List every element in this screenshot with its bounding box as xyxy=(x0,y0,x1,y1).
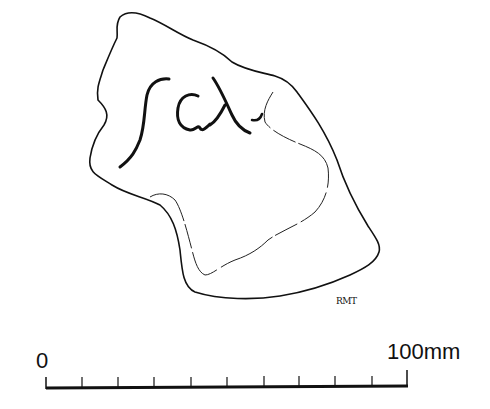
inscription-letter-c xyxy=(178,95,211,131)
inscription-letter-lambda xyxy=(210,78,250,133)
inscription-letter-gamma xyxy=(120,79,169,167)
inscription-letter-partial xyxy=(252,114,262,120)
scale-start-label: 0 xyxy=(36,348,48,374)
scale-bar xyxy=(46,370,408,389)
artist-signature: RMT xyxy=(336,296,357,306)
scale-end-label: 100mm xyxy=(387,339,460,365)
